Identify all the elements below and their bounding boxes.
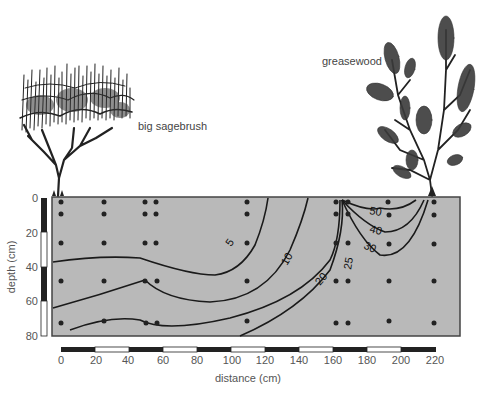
contour-label-50: 50	[369, 204, 383, 218]
greasewood-illustration	[364, 16, 478, 196]
svg-text:180: 180	[358, 354, 376, 366]
svg-text:80: 80	[26, 330, 38, 342]
svg-text:60: 60	[26, 295, 38, 307]
svg-text:20: 20	[26, 227, 38, 239]
depth-axis-label: depth (cm)	[5, 241, 17, 294]
svg-text:40: 40	[122, 354, 134, 366]
distance-scale-bar	[61, 347, 436, 352]
greasewood-label: greasewood	[322, 55, 382, 67]
svg-text:120: 120	[256, 354, 274, 366]
diagram-canvas: 5 10 20 25 30 40 50 0 20 40 60 80 depth …	[0, 0, 485, 394]
distance-tick-labels: 0 20 40 60 80 100 120 140 160 180 200 22…	[58, 354, 444, 366]
svg-text:20: 20	[90, 354, 102, 366]
sagebrush-label: big sagebrush	[138, 120, 207, 132]
depth-tick-labels: 0 20 40 60 80	[26, 192, 38, 342]
svg-text:80: 80	[191, 354, 203, 366]
svg-text:60: 60	[157, 354, 169, 366]
svg-text:100: 100	[223, 354, 241, 366]
svg-text:0: 0	[32, 192, 38, 204]
soil-profile-panel	[52, 197, 460, 336]
svg-text:200: 200	[392, 354, 410, 366]
svg-text:220: 220	[426, 354, 444, 366]
svg-text:40: 40	[26, 261, 38, 273]
depth-scale-bar	[41, 198, 47, 336]
svg-text:160: 160	[324, 354, 342, 366]
svg-text:0: 0	[58, 354, 64, 366]
contour-label-25: 25	[341, 256, 355, 270]
distance-axis-label: distance (cm)	[215, 372, 281, 384]
svg-text:140: 140	[290, 354, 308, 366]
sagebrush-illustration	[20, 64, 134, 196]
